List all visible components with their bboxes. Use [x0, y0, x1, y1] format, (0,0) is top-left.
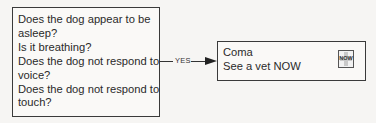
now-icon-label: NOW	[339, 55, 353, 61]
question-line: Does the dog not respond to	[18, 83, 159, 97]
question-line: touch?	[18, 96, 159, 110]
question-line: Is it breathing?	[18, 41, 159, 55]
question-line: Does the dog not respond to	[18, 55, 159, 69]
arrow-right-icon	[205, 57, 217, 65]
question-box: Does the dog appear to be asleep? Is it …	[12, 7, 160, 117]
now-urgent-icon: NOW	[338, 50, 354, 68]
yes-label: YES	[175, 56, 191, 65]
question-line: voice?	[18, 69, 159, 83]
question-line: asleep?	[18, 27, 159, 41]
question-line: Does the dog appear to be	[18, 13, 159, 27]
connector-line-left	[160, 61, 173, 62]
